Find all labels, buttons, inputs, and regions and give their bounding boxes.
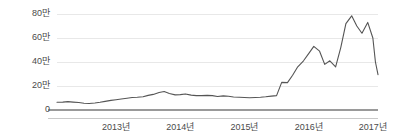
x-tick-label: 2014년: [166, 122, 194, 132]
x-tick-label: 2016년: [295, 122, 323, 132]
x-tick-label: 2017년: [359, 122, 387, 132]
line-chart: 020만40만60만80만 2013년2014년2015년2016년2017년: [0, 0, 407, 140]
x-tick-label: 2015년: [230, 122, 258, 132]
x-tick-label: 2013년: [102, 122, 130, 132]
x-axis-tick-labels: 2013년2014년2015년2016년2017년: [0, 0, 407, 140]
